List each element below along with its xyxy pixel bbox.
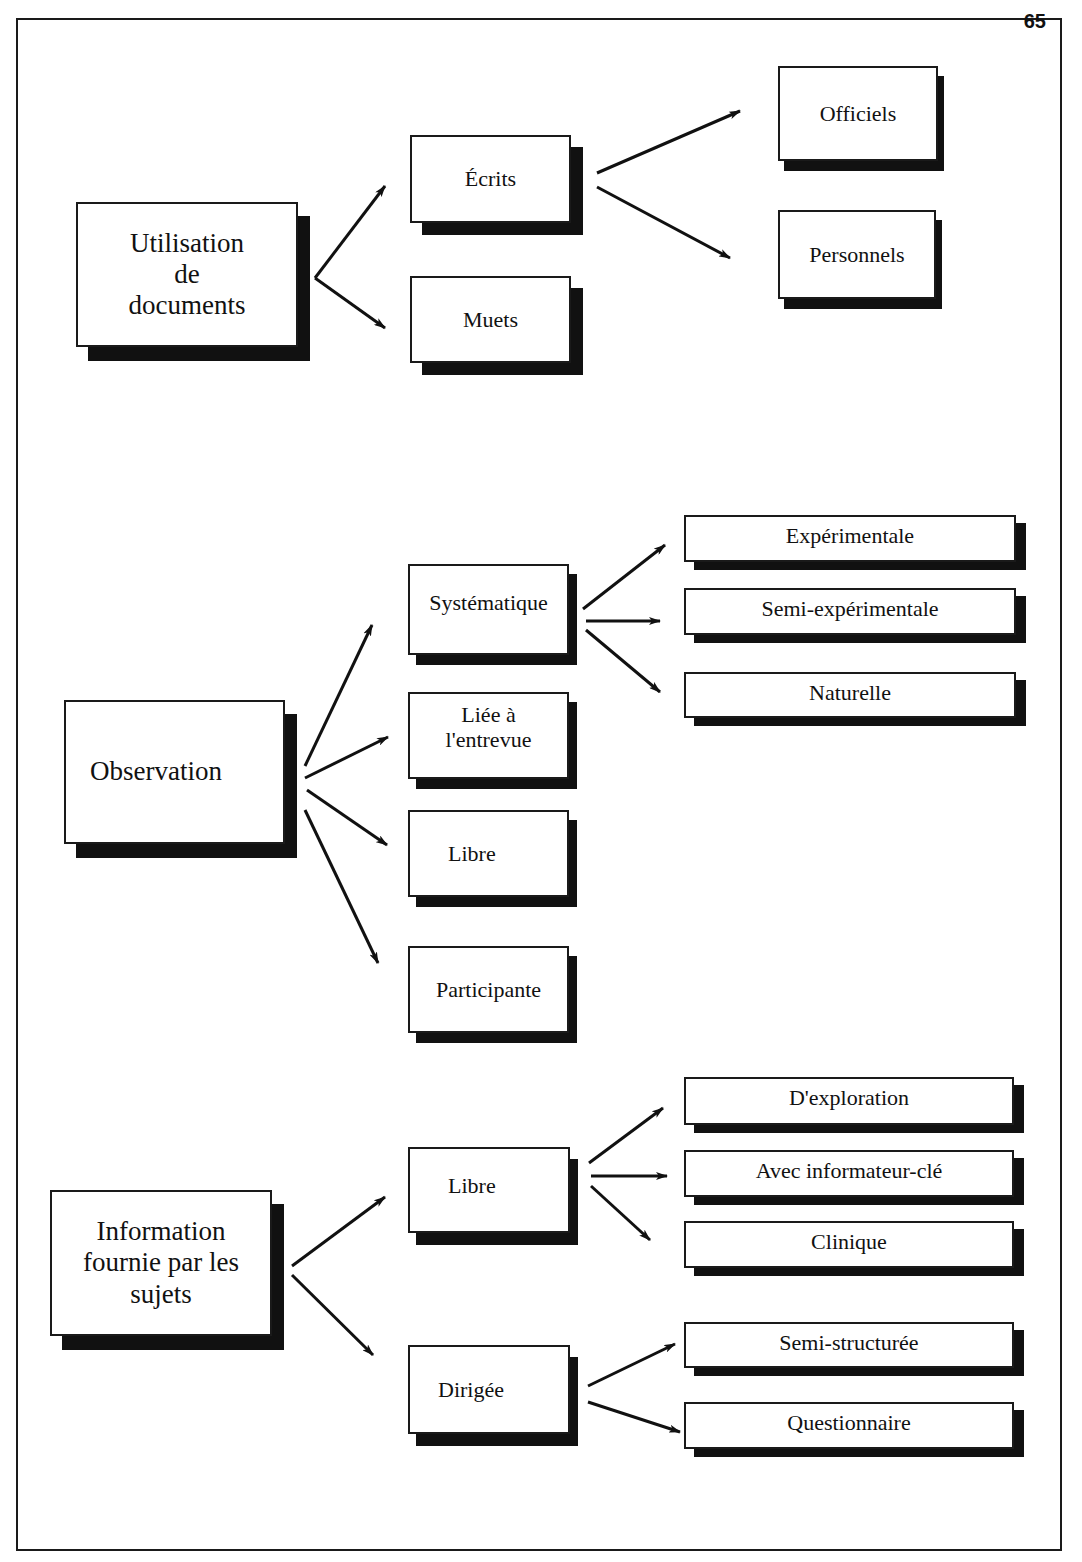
node-muets: Muets xyxy=(410,276,571,363)
node-semi-structuree: Semi-structurée xyxy=(684,1322,1014,1368)
node-label: Semi-expérimentale xyxy=(761,596,938,621)
node-label: de xyxy=(174,259,199,290)
node-naturelle: Naturelle xyxy=(684,672,1016,718)
node-label: Écrits xyxy=(465,166,516,191)
arrow-libre-clinique xyxy=(591,1186,650,1240)
node-avec-informateur-cle: Avec informateur-clé xyxy=(684,1150,1014,1197)
node-liee-a-lentrevue: Liée à l'entrevue xyxy=(408,692,569,779)
node-label: Systématique xyxy=(429,590,548,615)
arrow-dirigee-questionnaire xyxy=(588,1402,680,1432)
arrow-observation-systematique xyxy=(305,625,372,766)
node-participante: Participante xyxy=(408,946,569,1033)
node-label: Avec informateur-clé xyxy=(756,1158,943,1183)
node-label: Questionnaire xyxy=(787,1410,910,1435)
node-label: Participante xyxy=(436,977,541,1002)
node-label: Information xyxy=(97,1216,226,1247)
arrow-info-libre xyxy=(292,1197,385,1266)
node-label: Semi-structurée xyxy=(779,1330,918,1355)
arrow-systematique-experimentale xyxy=(583,545,665,609)
node-label: Clinique xyxy=(811,1229,887,1254)
node-information-fournie: Information fournie par les sujets xyxy=(50,1190,272,1336)
node-semi-experimentale: Semi-expérimentale xyxy=(684,588,1016,635)
node-dexploration: D'exploration xyxy=(684,1077,1014,1125)
node-questionnaire: Questionnaire xyxy=(684,1402,1014,1449)
node-libre-observation: Libre xyxy=(408,810,569,897)
node-label: Libre xyxy=(448,841,496,866)
node-label: Observation xyxy=(90,756,222,787)
node-label: Muets xyxy=(463,307,518,332)
node-label: fournie par les xyxy=(83,1247,239,1278)
node-ecrits: Écrits xyxy=(410,135,571,223)
node-experimentale: Expérimentale xyxy=(684,515,1016,562)
arrow-documents-ecrits xyxy=(315,186,385,278)
arrow-ecrits-officiels xyxy=(597,111,740,173)
node-label: Utilisation xyxy=(130,228,244,259)
arrow-documents-muets xyxy=(315,278,385,328)
node-personnels: Personnels xyxy=(778,210,936,299)
arrow-ecrits-personnels xyxy=(597,187,730,258)
node-label: sujets xyxy=(130,1279,192,1310)
node-label: l'entrevue xyxy=(446,727,532,752)
node-label: documents xyxy=(129,290,246,321)
node-label: Expérimentale xyxy=(786,523,914,548)
node-systematique: Systématique xyxy=(408,564,569,655)
node-utilisation-de-documents: Utilisation de documents xyxy=(76,202,298,347)
node-label: Liée à xyxy=(461,702,515,727)
node-label: Officiels xyxy=(820,101,897,126)
node-officiels: Officiels xyxy=(778,66,938,161)
node-dirigee: Dirigée xyxy=(408,1345,570,1434)
node-clinique: Clinique xyxy=(684,1221,1014,1268)
arrow-libre-exploration xyxy=(589,1108,663,1163)
node-label: Libre xyxy=(448,1173,496,1198)
arrow-info-dirigee xyxy=(292,1275,373,1355)
node-label: Dirigée xyxy=(438,1377,504,1402)
arrow-systematique-naturelle xyxy=(586,630,660,692)
node-label: Personnels xyxy=(809,242,904,267)
node-observation: Observation xyxy=(64,700,285,844)
arrow-dirigee-semistructuree xyxy=(588,1344,675,1386)
node-label: D'exploration xyxy=(789,1085,909,1110)
node-label: Naturelle xyxy=(809,680,891,705)
node-libre-information: Libre xyxy=(408,1147,570,1233)
